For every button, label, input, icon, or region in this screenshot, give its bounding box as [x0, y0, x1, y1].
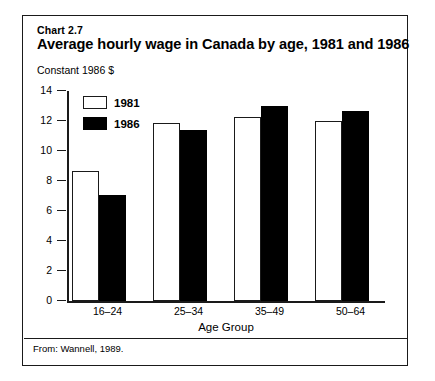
y-axis-tick-mark	[57, 240, 66, 241]
y-axis-tick-mark	[57, 300, 66, 301]
bar-1986-16–24	[99, 195, 126, 302]
y-axis-tick-label: 2	[46, 264, 52, 276]
plot-area: 02468101214 16–2425–3435–4950–64 Age Gro…	[23, 16, 409, 367]
bar-1986-35–49	[261, 106, 288, 301]
legend-item: 1986	[83, 115, 140, 132]
bar-1981-35–49	[234, 117, 261, 302]
bar-group	[310, 16, 391, 301]
y-axis-tick-label: 12	[40, 114, 52, 126]
y-axis-tick-label: 6	[46, 204, 52, 216]
bar-1981-16–24	[72, 171, 99, 302]
legend-swatch-1986-icon	[83, 117, 107, 130]
legend-label-1986: 1986	[114, 118, 140, 130]
legend-label-1981: 1981	[114, 97, 140, 109]
x-axis-title: Age Group	[67, 321, 385, 333]
bar-1981-25–34	[153, 123, 180, 302]
y-axis-tick-label: 14	[40, 84, 52, 96]
y-axis-tick-label: 4	[46, 234, 52, 246]
y-axis-tick-mark	[57, 120, 66, 121]
x-axis-category-label: 35–49	[229, 305, 310, 317]
y-axis-tick-mark	[57, 90, 66, 91]
y-axis-tick-label: 0	[46, 294, 52, 306]
bar-1986-50–64	[342, 111, 369, 302]
y-axis-tick-mark	[57, 210, 66, 211]
y-axis-tick-mark	[57, 180, 66, 181]
x-axis-category-label: 16–24	[67, 305, 148, 317]
bar-group	[148, 16, 229, 301]
y-axis-tick-mark	[57, 150, 66, 151]
legend: 1981 1986	[83, 94, 140, 136]
legend-swatch-1981-icon	[83, 96, 107, 109]
y-axis-tick-label: 8	[46, 174, 52, 186]
source-divider	[24, 338, 408, 339]
y-axis-tick-mark	[57, 270, 66, 271]
bar-group	[229, 16, 310, 301]
chart-frame: Chart 2.7 Average hourly wage in Canada …	[22, 15, 408, 366]
x-axis-category-label: 25–34	[148, 305, 229, 317]
source-note: From: Wannell, 1989.	[33, 343, 123, 354]
bar-1986-25–34	[180, 130, 207, 301]
x-axis-category-label: 50–64	[310, 305, 391, 317]
bar-1981-50–64	[315, 121, 342, 301]
x-axis-line	[67, 301, 385, 303]
y-axis-tick-label: 10	[40, 144, 52, 156]
bar-groups	[67, 16, 385, 301]
legend-item: 1981	[83, 94, 140, 111]
bar-group	[67, 16, 148, 301]
